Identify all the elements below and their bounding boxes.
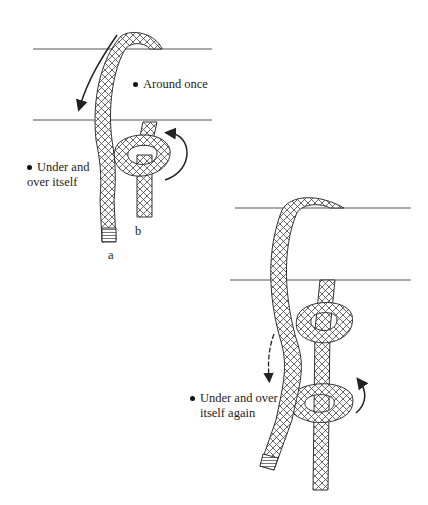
annotation-under-over: Under and over itself [27, 160, 89, 190]
bullet-icon [190, 396, 195, 401]
bullet-icon [133, 82, 138, 87]
arrow-up [356, 382, 365, 413]
end-label-a: a [108, 248, 114, 263]
rope-end-a-tip [102, 228, 116, 242]
annotation-under-over-again: Under and over itself again [190, 391, 278, 421]
panel-step-2 [230, 198, 411, 490]
knot-diagram [0, 0, 428, 505]
arrow-down [269, 334, 274, 378]
end-label-b: b [135, 224, 141, 239]
panel-step-1 [33, 32, 212, 242]
bullet-icon [27, 165, 32, 170]
annotation-around-once: Around once [133, 77, 208, 92]
